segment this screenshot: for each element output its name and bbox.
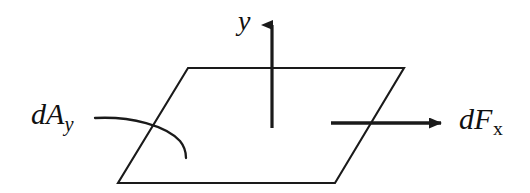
- force-element-symbol: dF: [459, 102, 492, 135]
- area-element-label: dAy: [31, 99, 74, 134]
- area-element-symbol: dA: [31, 97, 64, 130]
- differential-area-force-diagram: y dAy dFx: [0, 0, 530, 193]
- area-leader-curve: [95, 118, 186, 158]
- force-element-label: dFx: [459, 104, 503, 139]
- diagram-canvas: [0, 0, 530, 193]
- area-plane-parallelogram: [118, 68, 404, 183]
- area-element-subscript: y: [65, 113, 74, 135]
- y-axis-symbol: y: [238, 5, 250, 36]
- force-element-subscript: x: [493, 117, 503, 139]
- y-axis-label: y: [238, 7, 250, 35]
